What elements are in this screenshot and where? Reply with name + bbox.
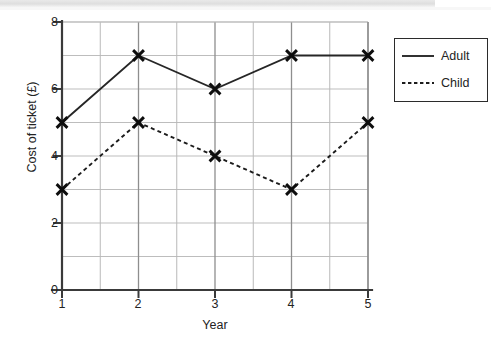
chart-legend: Adult Child: [394, 38, 488, 102]
legend-item-child: Child: [401, 75, 470, 91]
line-chart-figure: 8 6 4 2 0 1 2 3 4 5 Year Cost of ticket …: [0, 0, 491, 345]
legend-swatch-solid-line-icon: [401, 51, 435, 61]
x-tick-label-2: 2: [127, 297, 149, 311]
legend-swatch-dotted-line-icon: [401, 78, 435, 88]
legend-item-adult: Adult: [401, 48, 470, 64]
y-axis-title: Cost of ticket (£): [25, 57, 39, 197]
y-tick-label-4: 4: [36, 149, 58, 163]
y-tick-label-2: 2: [36, 216, 58, 230]
legend-label-child: Child: [441, 76, 470, 90]
x-axis-title: Year: [62, 318, 368, 332]
x-tick-label-1: 1: [51, 297, 73, 311]
x-tick-label-5: 5: [357, 297, 379, 311]
x-tick-label-3: 3: [204, 297, 226, 311]
x-tick-label-4: 4: [280, 297, 302, 311]
y-tick-label-0: 0: [36, 283, 58, 297]
y-tick-label-6: 6: [36, 82, 58, 96]
y-tick-label-8: 8: [36, 15, 58, 29]
legend-label-adult: Adult: [441, 49, 470, 63]
